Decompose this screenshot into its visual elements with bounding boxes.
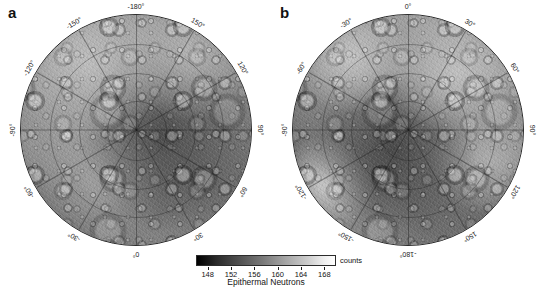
panel-b-map-disc-wrapper: 0°30°60°90°120°150°-180°-150°-120°-90°-6… [292, 14, 524, 246]
longitude-label: -90° [9, 124, 16, 137]
longitude-label-text: -180° [128, 3, 145, 10]
colorbar-group: 148152156160164168 counts Epithermal Neu… [0, 252, 545, 286]
longitude-label: 90° [257, 125, 264, 136]
panel-b-terrain-image [292, 14, 524, 246]
panel-b-letter: b [280, 4, 289, 21]
panel-a: a -180°150°120°90°60°30°0°-30°-60°-90°-1… [0, 0, 272, 260]
panel-b-map-disc[interactable] [292, 14, 524, 246]
longitude-label: -180° [128, 3, 145, 10]
colorbar-wrapper[interactable] [196, 255, 336, 266]
colorbar-unit-label: counts [340, 256, 362, 265]
panel-a-map-disc-wrapper: -180°150°120°90°60°30°0°-30°-60°-90°-120… [20, 14, 252, 246]
longitude-label-text: 90° [257, 125, 264, 136]
panel-b: b 0°30°60°90°120°150°-180°-150°-120°-90°… [272, 0, 544, 260]
longitude-label: -90° [281, 124, 288, 137]
colorbar-gradient [196, 255, 336, 266]
longitude-label: 0° [405, 3, 412, 10]
panel-a-terrain-image [20, 14, 252, 246]
panel-a-map-disc[interactable] [20, 14, 252, 246]
longitude-label: 90° [529, 125, 536, 136]
longitude-label-text: 90° [529, 125, 536, 136]
panel-a-letter: a [8, 4, 16, 21]
terrain-vignette-layer [20, 14, 252, 246]
longitude-label-text: -90° [281, 124, 288, 137]
terrain-vignette-layer [292, 14, 524, 246]
longitude-label-text: -90° [9, 124, 16, 137]
colorbar-title: Epithermal Neutrons [196, 277, 336, 287]
longitude-label-text: 0° [405, 3, 412, 10]
